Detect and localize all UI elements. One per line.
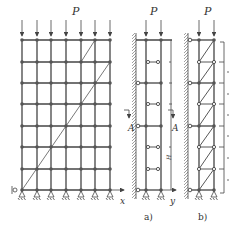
load-label: P [71,5,80,18]
wall-hatch-a [132,33,136,199]
structural-diagram: P x [0,0,236,232]
panel-a: A A H y P a) [124,5,179,222]
load-label-a: P [149,5,158,18]
caption-b: b) [198,212,207,222]
load-label-b: P [203,5,212,18]
panel-b: P b) [184,5,229,222]
section-label-right: A [171,123,179,133]
caption-a: a) [144,212,153,222]
dimension-label: H [165,154,172,161]
load-arrows [22,20,110,36]
pin-supports [18,191,114,200]
section-label-left: A [127,123,135,133]
y-axis-label: y [169,196,176,206]
section-arrow-right [168,110,173,118]
section-arrow-left [124,110,129,118]
wall-hatch-b [184,33,188,199]
origin-support [12,186,17,194]
x-axis-label: x [120,196,125,206]
